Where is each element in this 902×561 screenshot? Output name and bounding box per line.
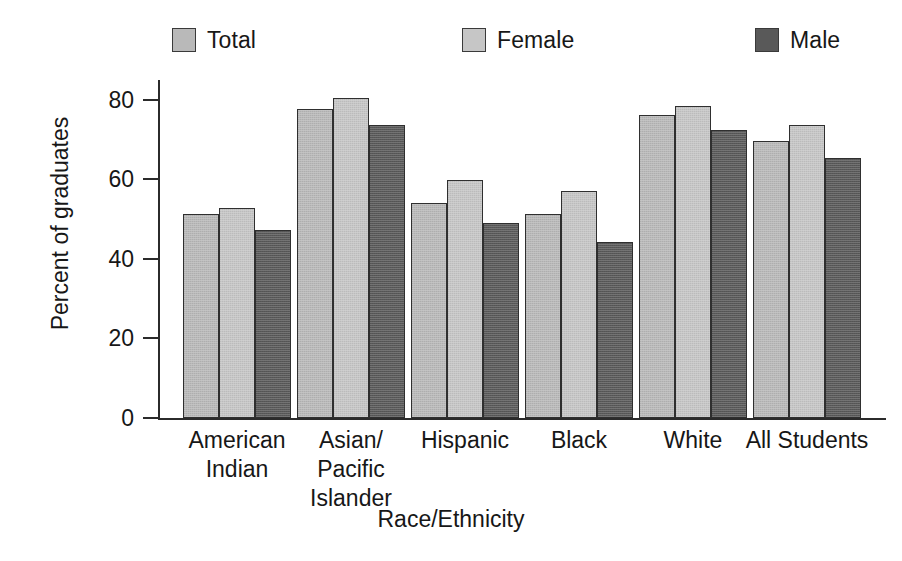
category-label-line: All Students bbox=[735, 426, 879, 455]
x-axis-title: Race/Ethnicity bbox=[0, 508, 902, 531]
bar bbox=[789, 125, 825, 418]
bar bbox=[639, 115, 675, 418]
bar bbox=[597, 242, 633, 418]
bar-chart: Total Female Male 020406080 AmericanIndi… bbox=[0, 0, 902, 561]
legend-swatch-male-icon bbox=[755, 28, 779, 52]
bar bbox=[333, 98, 369, 419]
bar bbox=[183, 214, 219, 418]
chart-legend: Total Female Male bbox=[0, 28, 902, 62]
bar bbox=[447, 180, 483, 418]
legend-swatch-female-icon bbox=[462, 28, 486, 52]
y-tick-label-60: 60 bbox=[108, 168, 134, 191]
bar bbox=[369, 125, 405, 418]
bar bbox=[675, 106, 711, 418]
bar bbox=[711, 130, 747, 418]
y-tick-40: 40 bbox=[143, 258, 158, 260]
legend-swatch-total-icon bbox=[172, 28, 196, 52]
y-tick-80: 80 bbox=[143, 99, 158, 101]
y-tick-0: 0 bbox=[143, 417, 158, 419]
bar bbox=[297, 109, 333, 418]
bar bbox=[411, 203, 447, 418]
y-axis-title: Percent of graduates bbox=[49, 84, 72, 364]
legend-label-total: Total bbox=[207, 29, 256, 52]
legend-item-female: Female bbox=[462, 28, 574, 52]
legend-item-total: Total bbox=[172, 28, 256, 52]
x-axis-category-label: All Students bbox=[735, 426, 879, 455]
legend-label-female: Female bbox=[497, 29, 574, 52]
bar bbox=[753, 141, 789, 418]
y-tick-label-80: 80 bbox=[108, 88, 134, 111]
category-label-line: Pacific bbox=[279, 455, 423, 484]
plot-area: 020406080 bbox=[158, 80, 886, 418]
bar bbox=[525, 214, 561, 418]
y-tick-label-0: 0 bbox=[121, 407, 134, 430]
bar bbox=[255, 230, 291, 418]
y-tick-60: 60 bbox=[143, 178, 158, 180]
bar bbox=[483, 223, 519, 418]
x-axis-category-labels: AmericanIndianAsian/PacificIslanderHispa… bbox=[158, 426, 886, 516]
bars-layer bbox=[158, 80, 886, 418]
y-tick-label-40: 40 bbox=[108, 247, 134, 270]
x-axis-line bbox=[158, 418, 886, 420]
y-tick-label-20: 20 bbox=[108, 327, 134, 350]
bar bbox=[825, 158, 861, 418]
y-tick-20: 20 bbox=[143, 337, 158, 339]
bar bbox=[219, 208, 255, 418]
legend-label-male: Male bbox=[790, 29, 840, 52]
legend-item-male: Male bbox=[755, 28, 840, 52]
bar bbox=[561, 191, 597, 418]
